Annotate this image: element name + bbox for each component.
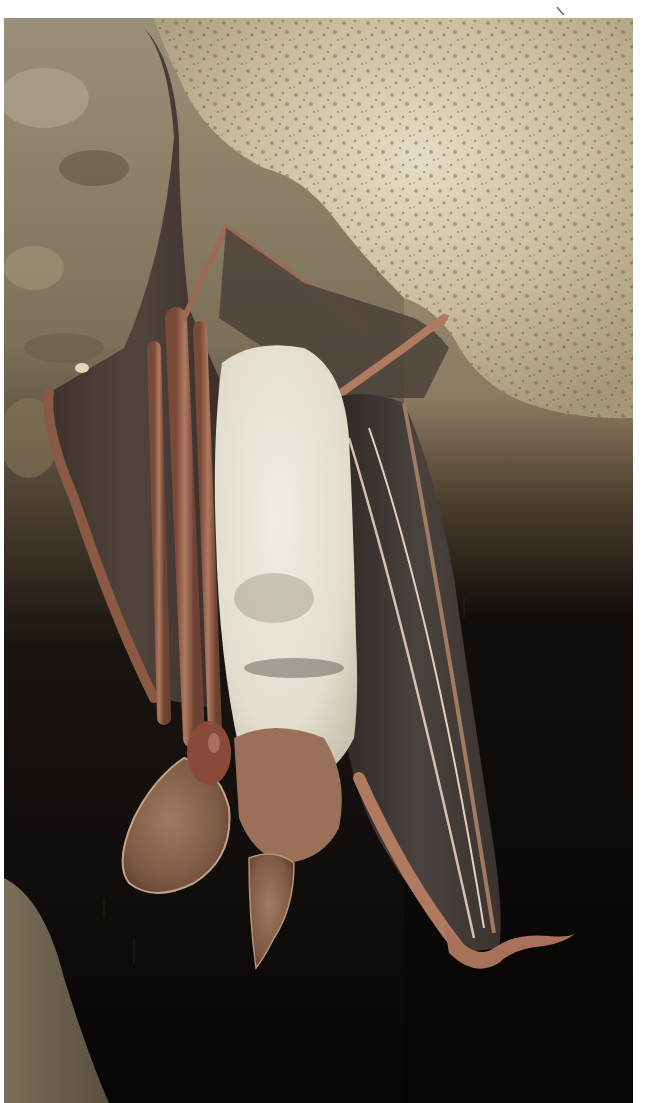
corner-mark: [556, 0, 566, 8]
bat-wrist: [187, 721, 231, 785]
bat-fur-belly: [215, 345, 357, 778]
page: [0, 0, 646, 1103]
bat-photo: [4, 18, 633, 1103]
wrist-highlight: [208, 733, 220, 753]
debris-speck: [75, 363, 89, 373]
bat-photo-drawing: [4, 18, 633, 1103]
